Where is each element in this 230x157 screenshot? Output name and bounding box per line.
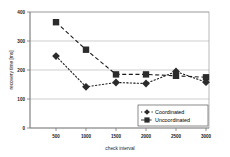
ytick-label-0: 0 xyxy=(22,126,25,131)
xtick-label-1500: 1500 xyxy=(111,134,122,139)
legend-label-coordinated: Coordinated xyxy=(155,109,184,115)
uncoordinated-marker-2000 xyxy=(143,71,149,77)
chart-legend[interactable]: Coordinated Uncoordinated xyxy=(138,105,208,126)
xtick-label-1000: 1000 xyxy=(81,134,92,139)
legend-label-uncoordinated: Uncoordinated xyxy=(155,117,190,123)
ytick-label-100: 100 xyxy=(17,97,25,102)
xtick-label-500: 500 xyxy=(52,134,60,139)
uncoordinated-marker-500 xyxy=(53,19,59,25)
ytick-label-300: 300 xyxy=(17,39,25,44)
square-icon xyxy=(144,117,149,122)
xtick-label-2000: 2000 xyxy=(141,134,152,139)
y-axis-title: recovery time [ms] xyxy=(9,50,14,89)
chart-container: 400 300 200 100 0 500 1000 1500 2000 250… xyxy=(0,0,230,157)
uncoordinated-marker-1000 xyxy=(83,47,89,53)
legend-item-coordinated[interactable]: Coordinated xyxy=(141,109,184,115)
ytick-label-400: 400 xyxy=(17,10,25,15)
legend-item-uncoordinated[interactable]: Uncoordinated xyxy=(141,117,190,123)
x-axis-title: check interval xyxy=(105,146,134,151)
xtick-label-3000: 3000 xyxy=(201,134,212,139)
uncoordinated-marker-1500 xyxy=(113,71,119,77)
recovery-time-line-chart: 400 300 200 100 0 500 1000 1500 2000 250… xyxy=(0,0,230,157)
xtick-label-2500: 2500 xyxy=(171,134,182,139)
ytick-label-200: 200 xyxy=(17,68,25,73)
